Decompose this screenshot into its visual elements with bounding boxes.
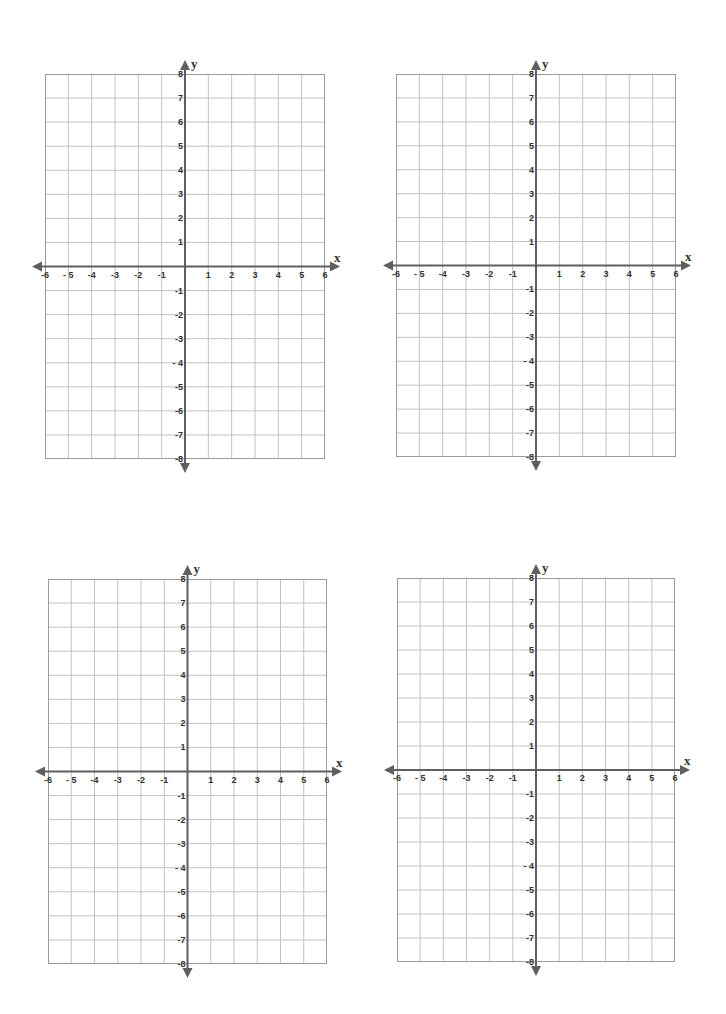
x-tick-label: 5 bbox=[650, 269, 655, 279]
y-tick-label: 7 bbox=[529, 597, 534, 607]
x-tick-label: 3 bbox=[603, 773, 608, 783]
x-tick-label: 2 bbox=[580, 773, 585, 783]
x-tick-label: 2 bbox=[580, 269, 585, 279]
x-tick-label: 4 bbox=[278, 775, 283, 785]
y-tick-label: -5 bbox=[526, 380, 534, 390]
x-tick-label: 4 bbox=[626, 773, 631, 783]
y-tick-label: 8 bbox=[529, 573, 534, 583]
x-tick-label: 4 bbox=[627, 269, 632, 279]
y-tick-label: 2 bbox=[529, 213, 534, 223]
y-tick-label: -1 bbox=[175, 286, 183, 296]
y-tick-label: -8 bbox=[175, 454, 183, 464]
y-tick-label: -2 bbox=[177, 815, 185, 825]
x-tick-label: 4 bbox=[276, 270, 281, 280]
y-tick-label: 5 bbox=[178, 141, 183, 151]
y-tick-label: - 4 bbox=[175, 863, 186, 873]
x-tick-label: 6 bbox=[322, 270, 327, 280]
y-tick-label: 8 bbox=[180, 574, 185, 584]
x-tick-label: -1 bbox=[509, 269, 517, 279]
y-tick-label: - 4 bbox=[172, 358, 183, 368]
y-tick-label: -7 bbox=[526, 428, 534, 438]
x-tick-label: 1 bbox=[206, 270, 211, 280]
y-tick-label: 6 bbox=[529, 621, 534, 631]
arrow-down-icon bbox=[183, 968, 193, 978]
x-tick-label: 5 bbox=[301, 775, 306, 785]
y-tick-label: -1 bbox=[526, 284, 534, 294]
x-axis-label: x bbox=[685, 249, 692, 264]
y-tick-label: 1 bbox=[529, 237, 534, 247]
x-tick-label: 3 bbox=[252, 270, 257, 280]
y-tick-label: 7 bbox=[180, 598, 185, 608]
x-tick-label: -6 bbox=[392, 269, 400, 279]
y-tick-label: 4 bbox=[180, 670, 185, 680]
y-tick-label: 4 bbox=[178, 165, 183, 175]
coordinate-plane-bottom-left: xy-6- 5-4-3-2-112345687654321-1-2-3- 4-5… bbox=[48, 579, 327, 964]
y-tick-label: -7 bbox=[175, 430, 183, 440]
y-tick-label: -2 bbox=[175, 310, 183, 320]
y-axis-label: y bbox=[542, 56, 549, 71]
y-tick-label: 5 bbox=[180, 646, 185, 656]
y-tick-label: 5 bbox=[529, 645, 534, 655]
y-tick-label: 7 bbox=[529, 93, 534, 103]
x-tick-label: -4 bbox=[439, 269, 447, 279]
y-tick-label: 8 bbox=[529, 69, 534, 79]
arrow-down-icon bbox=[531, 461, 541, 471]
x-axis-label: x bbox=[684, 753, 691, 768]
x-tick-label: 1 bbox=[557, 269, 562, 279]
y-tick-label: 2 bbox=[180, 718, 185, 728]
y-tick-label: 2 bbox=[178, 213, 183, 223]
y-tick-label: -8 bbox=[526, 957, 534, 967]
x-tick-label: -2 bbox=[486, 773, 494, 783]
y-tick-label: 5 bbox=[529, 141, 534, 151]
y-tick-label: 8 bbox=[178, 69, 183, 79]
x-tick-label: -2 bbox=[134, 270, 142, 280]
y-axis-label: y bbox=[194, 561, 201, 576]
y-tick-label: 6 bbox=[180, 622, 185, 632]
y-tick-label: -8 bbox=[177, 959, 185, 969]
x-tick-label: -4 bbox=[90, 775, 98, 785]
y-tick-label: 3 bbox=[529, 693, 534, 703]
y-tick-label: -7 bbox=[526, 933, 534, 943]
y-tick-label: 4 bbox=[529, 669, 534, 679]
y-tick-label: - 4 bbox=[523, 861, 534, 871]
y-tick-label: -6 bbox=[177, 911, 185, 921]
y-tick-label: -7 bbox=[177, 935, 185, 945]
x-tick-label: 1 bbox=[208, 775, 213, 785]
x-tick-label: -4 bbox=[439, 773, 447, 783]
x-tick-label: -2 bbox=[485, 269, 493, 279]
y-tick-label: 1 bbox=[529, 741, 534, 751]
arrow-down-icon bbox=[180, 463, 190, 473]
x-tick-label: 3 bbox=[603, 269, 608, 279]
y-tick-label: 3 bbox=[180, 694, 185, 704]
coordinate-plane-top-right: xy-6- 5-4-3-2-112345687654321-1-2-3- 4-5… bbox=[396, 74, 676, 457]
y-tick-label: 3 bbox=[529, 189, 534, 199]
x-tick-label: -6 bbox=[41, 270, 49, 280]
y-tick-label: 6 bbox=[529, 117, 534, 127]
x-tick-label: -3 bbox=[462, 269, 470, 279]
x-tick-label: -6 bbox=[44, 775, 52, 785]
x-tick-label: -3 bbox=[462, 773, 470, 783]
y-tick-label: -5 bbox=[175, 382, 183, 392]
y-tick-label: 7 bbox=[178, 93, 183, 103]
x-tick-label: -4 bbox=[88, 270, 96, 280]
x-tick-label: 2 bbox=[231, 775, 236, 785]
x-tick-label: -3 bbox=[111, 270, 119, 280]
y-tick-label: -6 bbox=[175, 406, 183, 416]
x-axis-label: x bbox=[334, 250, 341, 265]
y-tick-label: 1 bbox=[180, 742, 185, 752]
x-axis-label: x bbox=[336, 755, 343, 770]
y-tick-label: 1 bbox=[178, 237, 183, 247]
y-axis-label: y bbox=[191, 56, 198, 71]
x-tick-label: 6 bbox=[673, 269, 678, 279]
y-tick-label: -2 bbox=[526, 308, 534, 318]
y-tick-label: -6 bbox=[526, 909, 534, 919]
x-tick-label: -1 bbox=[158, 270, 166, 280]
arrow-down-icon bbox=[531, 966, 541, 976]
coordinate-plane-top-left: xy-6- 5-4-3-2-112345687654321-1-2-3- 4-5… bbox=[45, 74, 325, 459]
x-tick-label: 5 bbox=[649, 773, 654, 783]
x-tick-label: 3 bbox=[255, 775, 260, 785]
y-axis-label: y bbox=[542, 560, 549, 575]
y-tick-label: -3 bbox=[526, 837, 534, 847]
y-tick-label: -3 bbox=[177, 839, 185, 849]
y-tick-label: -5 bbox=[526, 885, 534, 895]
